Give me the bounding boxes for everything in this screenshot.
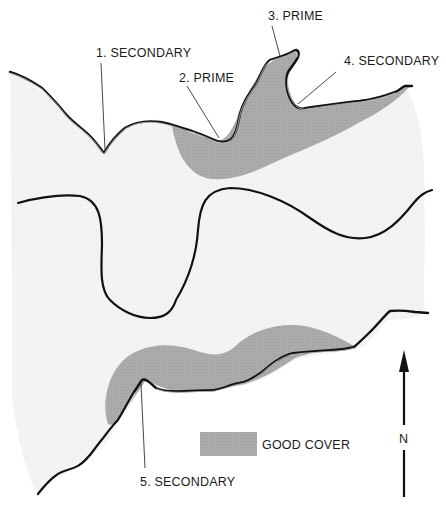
label-4-secondary: 4. SECONDARY bbox=[344, 54, 440, 68]
leader-line-1 bbox=[101, 63, 105, 150]
north-label: N bbox=[399, 432, 408, 446]
north-arrowhead-icon bbox=[399, 350, 409, 372]
label-3-prime: 3. PRIME bbox=[268, 9, 323, 23]
north-arrow: N bbox=[399, 350, 409, 497]
leader-line-3 bbox=[272, 26, 280, 56]
leader-line-5 bbox=[141, 384, 145, 468]
label-5-secondary: 5. SECONDARY bbox=[140, 475, 236, 489]
leader-line-4 bbox=[298, 72, 336, 104]
legend-label-good-cover: GOOD COVER bbox=[262, 438, 350, 452]
map-diagram: 1. SECONDARY 2. PRIME 3. PRIME 4. SECOND… bbox=[0, 0, 446, 505]
label-2-prime: 2. PRIME bbox=[179, 71, 234, 85]
label-1-secondary: 1. SECONDARY bbox=[96, 46, 192, 60]
legend-swatch-good-cover bbox=[200, 432, 257, 456]
map-canvas: 1. SECONDARY 2. PRIME 3. PRIME 4. SECOND… bbox=[0, 0, 446, 505]
